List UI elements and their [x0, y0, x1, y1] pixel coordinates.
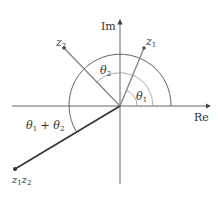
imag-axis-label: Im [101, 20, 116, 33]
z1z2-point [13, 167, 17, 171]
theta2-label: θ2 [100, 64, 111, 78]
theta1-label: θ1 [136, 90, 147, 104]
z1z2-label: z1z2 [11, 174, 32, 187]
z1z2-vector [15, 106, 120, 169]
theta-sum-label: θ1 + θ2 [26, 119, 64, 133]
z1-label: z1 [145, 35, 156, 49]
z2-label: z2 [55, 36, 66, 50]
z2-vector [64, 48, 120, 106]
complex-product-diagram: Im Re z1 z2 z1z2 θ1 θ2 θ1 + θ2 [0, 0, 218, 200]
real-axis-label: Re [194, 111, 209, 124]
